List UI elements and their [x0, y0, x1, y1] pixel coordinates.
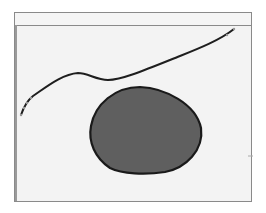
- anchor-point[interactable]: [23, 107, 25, 109]
- anchor-point[interactable]: [30, 97, 32, 99]
- anchor-point[interactable]: [226, 34, 228, 36]
- anchor-point[interactable]: [20, 114, 22, 116]
- drawing-canvas[interactable]: [0, 0, 266, 213]
- anchor-point[interactable]: [26, 102, 28, 104]
- filled-blob-shape[interactable]: [90, 87, 201, 174]
- anchor-point[interactable]: [233, 28, 235, 30]
